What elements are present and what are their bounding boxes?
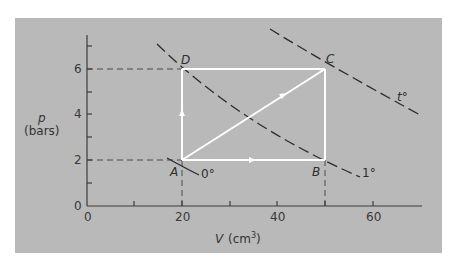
y-axis-label-units: (bars) <box>24 124 60 138</box>
path-a-c <box>182 69 325 160</box>
axes <box>87 35 422 206</box>
x-tick-20: 20 <box>175 210 190 224</box>
x-axis-label-units: (cm3) <box>228 231 261 246</box>
point-label-d: D <box>181 53 190 67</box>
y-tick-4: 4 <box>74 107 82 121</box>
point-label-c: C <box>326 52 335 66</box>
y-tick-2: 2 <box>74 153 82 167</box>
x-axis-label-v: V <box>215 232 224 246</box>
isotherm-label-t: t° <box>397 90 408 104</box>
x-tick-60: 60 <box>366 210 381 224</box>
point-label-b: B <box>312 165 320 179</box>
isotherm-label-1: 1° <box>362 166 376 180</box>
arrow-right-icon <box>249 157 256 163</box>
pv-diagram: 0 0 20 40 60 2 4 6 p (bars) V (cm3) D C … <box>0 0 455 268</box>
point-label-a: A <box>169 165 178 179</box>
y-axis-label-p: p <box>37 111 46 125</box>
y-tick-6: 6 <box>74 62 82 76</box>
x-tick-0: 0 <box>84 210 92 224</box>
x-tick-40: 40 <box>270 210 285 224</box>
arrow-up-icon <box>179 109 185 116</box>
y-tick-0: 0 <box>74 199 82 213</box>
isotherm-label-0: 0° <box>201 167 215 181</box>
guide-lines <box>87 69 325 206</box>
process-paths <box>182 69 325 160</box>
